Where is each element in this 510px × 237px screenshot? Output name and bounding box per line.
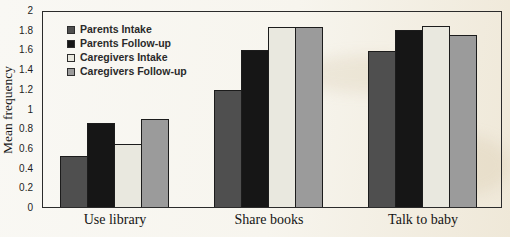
y-tick-label-0-6: 0.6	[19, 144, 33, 154]
bar-group-use-library	[60, 12, 172, 207]
y-tick-label-0-8: 0.8	[19, 124, 33, 134]
y-axis-ticks: 00.20.40.60.811.21.41.61.82	[0, 11, 38, 208]
bar-group-talk-to-baby	[368, 12, 480, 207]
bar-use-library-parents-follow-up	[87, 123, 115, 207]
bar-use-library-caregivers-intake	[114, 144, 142, 207]
bar-talk-to-baby-parents-follow-up	[395, 30, 423, 207]
plot-area: Parents IntakeParents Follow-upCaregiver…	[42, 11, 502, 208]
y-tick-label-1: 1	[27, 105, 33, 115]
bar-share-books-parents-follow-up	[241, 50, 269, 207]
chart-page: Mean frequency 00.20.40.60.811.21.41.61.…	[0, 0, 510, 237]
y-tick-label-2: 2	[27, 6, 33, 16]
x-category-label-use-library: Use library	[45, 212, 185, 228]
y-tick-label-1-6: 1.6	[19, 45, 33, 55]
bar-talk-to-baby-caregivers-intake	[422, 26, 450, 207]
bar-use-library-parents-intake	[60, 156, 88, 207]
y-tick-label-0-2: 0.2	[19, 183, 33, 193]
bar-talk-to-baby-parents-intake	[368, 51, 396, 207]
y-tick-label-1-8: 1.8	[19, 26, 33, 36]
y-tick-label-0: 0	[27, 203, 33, 213]
bar-use-library-caregivers-follow-up	[141, 119, 169, 207]
y-tick-label-1-4: 1.4	[19, 65, 33, 75]
bar-talk-to-baby-caregivers-follow-up	[449, 35, 477, 207]
bar-group-share-books	[214, 12, 326, 207]
y-tick-label-1-2: 1.2	[19, 85, 33, 95]
bar-share-books-parents-intake	[214, 90, 242, 207]
x-category-label-talk-to-baby: Talk to baby	[353, 212, 493, 228]
bar-share-books-caregivers-follow-up	[295, 27, 323, 207]
bar-share-books-caregivers-intake	[268, 27, 296, 207]
x-category-label-share-books: Share books	[199, 212, 339, 228]
y-tick-label-0-4: 0.4	[19, 164, 33, 174]
